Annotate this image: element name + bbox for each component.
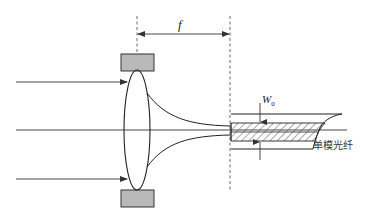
focused-beam-upper — [147, 93, 230, 126]
focal-length-label: f — [178, 18, 182, 31]
focused-beam-lower — [147, 135, 230, 167]
diagram-svg — [0, 0, 365, 222]
waist-symbol: W — [262, 93, 271, 105]
lens-mount-top — [121, 54, 154, 71]
fiber-label: 单模光纤 — [313, 141, 353, 151]
lens-mount-bottom — [121, 190, 154, 207]
waist-label: W0 — [262, 94, 275, 108]
diagram-canvas: f W0 单模光纤 — [0, 0, 365, 222]
waist-subscript: 0 — [271, 100, 275, 108]
